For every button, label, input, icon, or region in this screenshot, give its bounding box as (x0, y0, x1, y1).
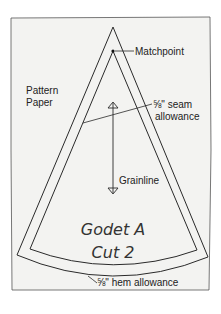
seam-allowance-label-line2: allowance (155, 111, 200, 122)
seam-allowance-label: ⅝" seam allowance (153, 99, 200, 122)
pattern-paper-label-line1: Pattern (26, 85, 58, 96)
godet-pattern-diagram: Matchpoint Pattern Paper ⅝" seam allowan… (0, 0, 221, 314)
hem-allowance-label: ⅝" hem allowance (97, 277, 179, 288)
matchpoint-dot (111, 49, 114, 52)
matchpoint-label: Matchpoint (135, 46, 184, 57)
cut-instruction: Cut 2 (92, 243, 135, 262)
pattern-paper-label-line2: Paper (26, 97, 53, 108)
piece-name: Godet A (81, 220, 146, 239)
seam-allowance-label-line1: ⅝" seam (153, 99, 192, 110)
grainline-label: Grainline (119, 175, 159, 186)
